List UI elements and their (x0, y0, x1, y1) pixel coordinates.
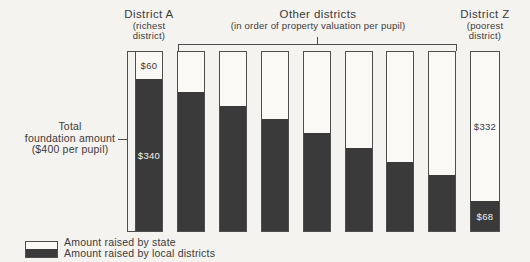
state-segment (387, 52, 413, 162)
state-segment: $60 (136, 52, 162, 79)
state-segment (262, 52, 288, 119)
local-segment (178, 92, 204, 231)
bars-area: $60$340$332$68 (0, 0, 530, 262)
state-value-label: $60 (141, 60, 158, 71)
bar-other-district-6 (386, 51, 414, 232)
legend-swatch (25, 241, 58, 258)
state-segment (346, 52, 372, 148)
bar-other-district-3 (261, 51, 289, 232)
local-segment (346, 148, 372, 231)
state-value-label: $332 (474, 121, 496, 132)
legend: Amount raised by state Amount raised by … (64, 237, 215, 258)
local-value-label: $68 (477, 211, 494, 222)
state-segment (429, 52, 455, 175)
local-value-label: $340 (138, 150, 160, 161)
local-segment (429, 175, 455, 231)
bar-other-district-5 (345, 51, 373, 232)
local-segment (262, 119, 288, 231)
figure-canvas: District A (richest district) Other dist… (0, 0, 530, 262)
legend-local-swatch (26, 249, 57, 257)
bar-other-district-7 (428, 51, 456, 232)
local-segment: $340 (136, 79, 162, 231)
bar-other-district-4 (303, 51, 331, 232)
local-segment (304, 133, 330, 231)
local-segment (387, 162, 413, 231)
state-segment (178, 52, 204, 92)
local-segment: $68 (471, 201, 499, 231)
legend-local-label: Amount raised by local districts (64, 248, 215, 259)
bar-other-district-2 (219, 51, 247, 232)
bar-other-district-1 (177, 51, 205, 232)
legend-state-label: Amount raised by state (64, 237, 215, 248)
state-segment: $332 (471, 52, 499, 201)
local-segment (220, 106, 246, 231)
bar-district-a: $60$340 (135, 51, 163, 232)
state-segment (220, 52, 246, 106)
state-segment (304, 52, 330, 133)
bar-district-z: $332$68 (470, 51, 500, 232)
